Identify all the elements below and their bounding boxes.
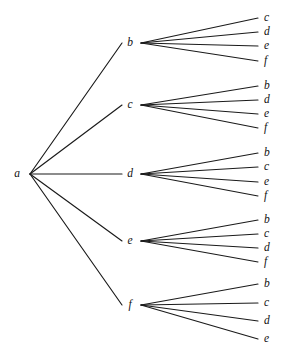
edge-f-to-b xyxy=(141,284,258,305)
edge-c-to-f xyxy=(141,105,258,128)
node-label-group: abcdefcbdefdbcefebcdffbcde xyxy=(14,11,270,344)
edge-d-to-e xyxy=(141,174,258,182)
leaf-node-label-d-c-1: c xyxy=(264,160,269,172)
leaf-node-label-f-b-0: b xyxy=(264,277,270,289)
edge-root-to-b xyxy=(30,43,122,174)
internal-node-label-e-3: e xyxy=(127,234,132,246)
tree-diagram-canvas: abcdefcbdefdbcefebcdffbcde xyxy=(0,0,288,352)
leaf-node-label-c-b-0: b xyxy=(264,79,270,91)
root-node-label-a: a xyxy=(14,167,20,179)
leaf-node-label-c-d-1: d xyxy=(264,93,270,105)
edge-b-to-c xyxy=(141,18,258,43)
internal-node-label-c-1: c xyxy=(127,98,132,110)
edge-f-to-d xyxy=(141,305,258,321)
leaf-node-label-c-f-3: f xyxy=(264,121,269,134)
root-edge-group xyxy=(30,43,122,305)
leaf-node-label-f-e-3: e xyxy=(264,332,269,344)
leaf-node-label-e-b-0: b xyxy=(264,213,270,225)
edge-root-to-c xyxy=(30,105,122,174)
leaf-node-label-f-c-1: c xyxy=(264,296,269,308)
leaf-node-label-e-c-1: c xyxy=(264,227,269,239)
leaf-edge-group xyxy=(141,18,258,339)
leaf-node-label-e-d-2: d xyxy=(264,241,270,253)
edge-root-to-f xyxy=(30,174,122,305)
edge-f-to-c xyxy=(141,303,258,305)
leaf-node-label-b-f-3: f xyxy=(264,54,269,67)
leaf-node-label-d-b-0: b xyxy=(264,146,270,158)
edge-c-to-e xyxy=(141,105,258,114)
leaf-node-label-b-e-2: e xyxy=(264,39,269,51)
leaf-node-label-d-f-3: f xyxy=(264,189,269,202)
leaf-node-label-e-f-3: f xyxy=(264,255,269,268)
leaf-node-label-b-c-0: c xyxy=(264,11,269,23)
edge-b-to-d xyxy=(141,32,258,43)
internal-node-label-d-2: d xyxy=(127,167,133,179)
internal-node-label-f-4: f xyxy=(128,298,133,311)
leaf-node-label-b-d-1: d xyxy=(264,25,270,37)
leaf-node-label-c-e-2: e xyxy=(264,107,269,119)
edge-d-to-f xyxy=(141,174,258,196)
edge-root-to-e xyxy=(30,174,122,241)
leaf-node-label-d-e-2: e xyxy=(264,175,269,187)
edge-f-to-e xyxy=(141,305,258,339)
leaf-node-label-f-d-2: d xyxy=(264,314,270,326)
internal-node-label-b-0: b xyxy=(127,36,133,48)
tree-diagram-figure: abcdefcbdefdbcefebcdffbcde xyxy=(0,0,288,352)
